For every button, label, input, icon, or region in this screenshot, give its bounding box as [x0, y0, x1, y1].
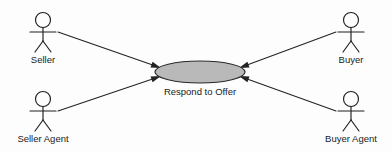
association-seller [58, 32, 161, 68]
actor-leg-right-icon [351, 41, 359, 52]
actor-leg-left-icon [35, 41, 43, 52]
association-seller-agent [58, 76, 161, 111]
actor-leg-left-icon [343, 120, 351, 131]
actor-seller-agent[interactable]: Seller Agent [17, 92, 69, 144]
actor-head-icon [36, 13, 51, 28]
actor-label-seller-agent: Seller Agent [17, 133, 69, 144]
use-case-label: Respond to Offer [164, 86, 236, 97]
association-line-seller [58, 32, 157, 67]
actor-head-icon [344, 92, 359, 107]
diagram-canvas: Respond to Offer Seller Buyer Sell [0, 0, 392, 152]
actor-leg-left-icon [343, 41, 351, 52]
association-line-seller-agent [58, 78, 157, 112]
actor-leg-right-icon [43, 120, 51, 131]
association-buyer [239, 32, 336, 68]
actor-head-icon [36, 92, 51, 107]
actor-buyer[interactable]: Buyer [338, 13, 364, 65]
association-buyer-agent [239, 76, 336, 111]
actor-head-icon [344, 13, 359, 28]
association-line-buyer-agent [243, 78, 336, 112]
actor-seller[interactable]: Seller [30, 13, 56, 65]
actor-label-seller: Seller [31, 54, 55, 65]
actor-leg-right-icon [351, 120, 359, 131]
actor-leg-left-icon [35, 120, 43, 131]
use-case-ellipse[interactable] [155, 61, 245, 83]
association-line-buyer [243, 32, 336, 67]
actor-leg-right-icon [43, 41, 51, 52]
actor-label-buyer: Buyer [339, 54, 364, 65]
actor-label-buyer-agent: Buyer Agent [325, 133, 377, 144]
use-case-diagram: Respond to Offer Seller Buyer Sell [0, 0, 392, 152]
actor-buyer-agent[interactable]: Buyer Agent [325, 92, 377, 144]
